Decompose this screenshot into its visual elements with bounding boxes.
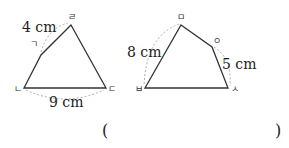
measurement-label: 9 cm (49, 95, 83, 109)
answer-open-paren: ( (102, 121, 108, 140)
vertex-label: ㄷ (108, 85, 116, 94)
measurement-label: 5 cm (222, 57, 256, 71)
vertex-label: ㄱ (30, 40, 38, 49)
vertex-label: ㄴ (14, 85, 22, 94)
vertex-label: ㅁ (177, 13, 185, 22)
vertex-label: ㄹ (68, 13, 76, 22)
measurement-label: 8 cm (127, 45, 161, 59)
answer-close-paren: ) (275, 121, 281, 140)
measurement-label: 4 cm (22, 20, 56, 34)
vertex-label: ㅅ (231, 85, 239, 94)
vertex-label: ㅇ (213, 37, 221, 46)
vertex-label: ㅂ (135, 85, 143, 94)
